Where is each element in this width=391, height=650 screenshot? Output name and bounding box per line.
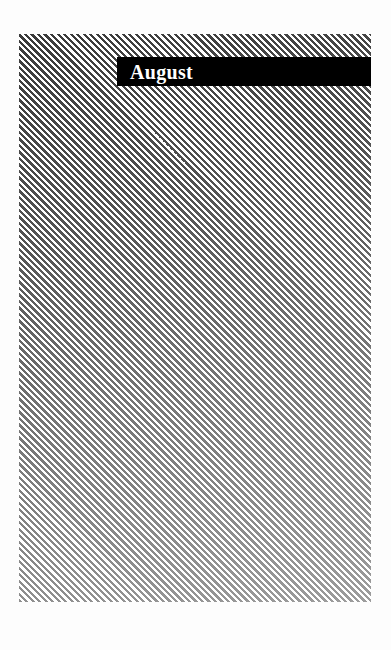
stripe-fade-overlay	[19, 34, 371, 602]
cover-title: August	[130, 62, 193, 82]
cover-panel: August	[19, 34, 371, 602]
title-bar: August	[117, 57, 371, 86]
